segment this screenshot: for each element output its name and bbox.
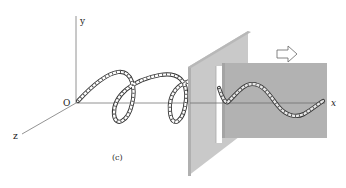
figure-caption: (c) [112, 153, 123, 162]
y-axis-label: y [79, 16, 86, 26]
origin-label: O [63, 98, 70, 108]
z-axis-label: z [13, 131, 18, 141]
x-axis-label: x [331, 98, 336, 108]
polarization-diagram: y O z x (c) [0, 0, 346, 188]
slit [216, 66, 222, 143]
